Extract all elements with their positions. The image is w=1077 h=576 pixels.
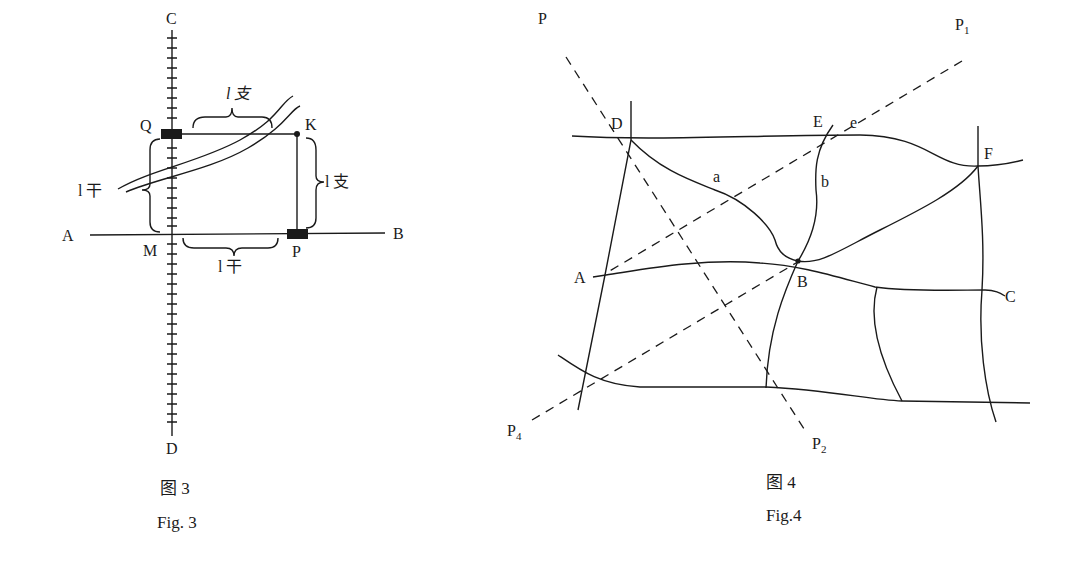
figure-3: C D A B M Q K P l 支 l 支 l 干 l 干 图 3 Fig.… [62, 10, 404, 532]
label-l-trunk-bottom: l 干 [218, 258, 242, 275]
label-m: M [143, 242, 157, 259]
label-c: C [166, 10, 177, 27]
river-line-2 [126, 106, 300, 192]
road-left-vertical [578, 101, 631, 410]
figure-4: P P1 P2 P4 D E e F a b A B C 图 4 Fig.4 [507, 10, 1030, 525]
point-b [795, 258, 800, 263]
label-p1: P1 [955, 16, 969, 36]
label-a-lower: a [713, 168, 720, 185]
label-c: C [1005, 288, 1016, 305]
label-l-trunk-left: l 干 [78, 182, 102, 199]
caption-en-fig4: Fig.4 [766, 506, 802, 525]
label-e: E [813, 113, 823, 130]
label-e-lower: e [850, 114, 857, 131]
label-l-branch-top: l 支 [226, 85, 252, 102]
marker-q [161, 129, 182, 139]
dashed-line-p4-b [532, 263, 796, 420]
line-a-b [90, 233, 385, 235]
brace-bottom [183, 238, 278, 256]
label-a: A [574, 269, 586, 286]
caption-cn-fig4: 图 4 [766, 473, 796, 492]
label-l-branch-right: l 支 [325, 173, 349, 190]
label-b-lower: b [821, 173, 829, 190]
river-line-1 [118, 96, 293, 189]
label-d: D [166, 440, 178, 457]
label-p2: P2 [812, 435, 826, 455]
road-right-vertical [978, 126, 996, 422]
brace-right [306, 138, 324, 228]
dashed-line-p-p2 [566, 57, 806, 432]
label-d: D [611, 115, 623, 132]
label-q: Q [140, 117, 152, 134]
label-b: B [393, 225, 404, 242]
label-p: P [538, 10, 547, 27]
label-k: K [305, 116, 317, 133]
label-a: A [62, 227, 74, 244]
road-e-b [798, 125, 833, 261]
label-b: B [797, 273, 808, 290]
caption-en-fig3: Fig. 3 [157, 513, 197, 532]
label-p4: P4 [507, 422, 522, 442]
caption-cn-fig3: 图 3 [160, 479, 190, 498]
label-f: F [984, 145, 993, 162]
label-p: P [292, 243, 301, 260]
point-k [294, 131, 300, 137]
road-middle-vertical [874, 287, 902, 401]
marker-p [287, 229, 308, 239]
brace-top [193, 108, 272, 128]
road-b-down [766, 261, 798, 388]
road-top [572, 135, 1023, 166]
figures-canvas: C D A B M Q K P l 支 l 支 l 干 l 干 图 3 Fig.… [0, 0, 1077, 576]
dashed-line-p1-a [608, 61, 962, 272]
